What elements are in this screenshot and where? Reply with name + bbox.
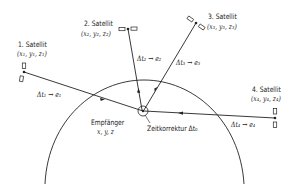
signal-line-2 — [128, 29, 142, 110]
satellite-2-icon — [119, 27, 137, 31]
satellite-1-title: 1. Satellit — [18, 41, 47, 49]
satellite-3-icon — [187, 16, 205, 30]
satellite-3-title: 3. Satellit — [208, 13, 237, 21]
signal-line-4 — [144, 111, 275, 118]
gps-diagram: 1. Satellit (x₁, y₁, z₁) Δt₁ → e₁ 2. Sat… — [0, 0, 300, 195]
clock-correction-label: Zeitkorrektur Δt₀ — [147, 125, 198, 133]
satellite-1-icon — [19, 63, 25, 82]
satellite-3-coords: (x₃, y₃, z₃) — [207, 23, 237, 31]
signal-4-label: Δt₄ → e₄ — [231, 121, 255, 129]
satellite-4-icon — [273, 109, 276, 128]
signal-1-label: Δt₁ → e₁ — [37, 91, 61, 99]
satellite-2-coords: (x₂, y₂, z₂) — [81, 30, 111, 38]
satellite-4-title: 4. Satellit — [252, 86, 281, 94]
receiver-icon — [138, 106, 150, 123]
receiver-coords: x, y, z — [97, 128, 114, 136]
satellite-2-title: 2. Satellit — [84, 20, 113, 28]
satellite-4-coords: (x₄, y₄, z₄) — [251, 95, 281, 103]
earth-arc — [45, 80, 244, 184]
signal-3-label: Δt₃ → e₃ — [176, 59, 200, 67]
signal-2-label: Δt₂ → e₂ — [137, 55, 161, 63]
receiver-title: Empfänger — [91, 119, 124, 127]
satellite-1-coords: (x₁, y₁, z₁) — [17, 50, 47, 58]
